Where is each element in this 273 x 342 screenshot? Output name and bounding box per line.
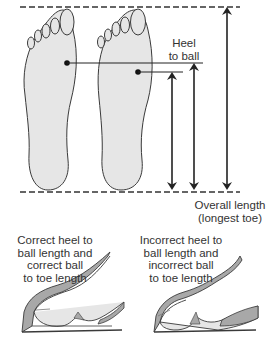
right-foot-outline (98, 9, 153, 190)
left-foot-outline (24, 9, 76, 190)
correct-fit-caption: Correct heel to ball length and correct … (10, 234, 100, 284)
heel-to-ball-label: Heel to ball (162, 37, 206, 62)
incorrect-fit-caption: Incorrect heel to ball length and incorr… (135, 234, 227, 284)
overall-length-label: Overall length (longest toe) (188, 199, 272, 224)
foot-diagram (0, 0, 273, 342)
